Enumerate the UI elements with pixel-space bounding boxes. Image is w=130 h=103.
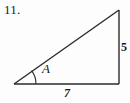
angle-arc [32, 71, 36, 84]
hypotenuse-line [14, 10, 119, 84]
angle-label-A: A [42, 62, 50, 75]
opposite-side-label: 5 [121, 41, 127, 53]
adjacent-side-label: 7 [64, 87, 70, 99]
problem-number: 11. [4, 3, 21, 16]
math-figure: 11. A 5 7 [0, 0, 130, 103]
